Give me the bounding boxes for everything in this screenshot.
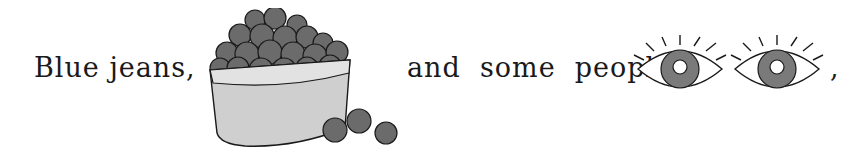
- blueberry-basket-icon: [205, 8, 405, 148]
- sentence-comma: ,: [830, 52, 840, 83]
- sentence-part-blue-jeans: Blue jeans,: [34, 52, 196, 83]
- pair-of-eyes-icon: [630, 35, 830, 105]
